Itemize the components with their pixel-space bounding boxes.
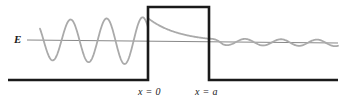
barrier-right-edge-label: x = a (195, 87, 218, 97)
tunneling-diagram: E x = 0 x = a (0, 0, 341, 105)
diagram-canvas (0, 0, 341, 105)
potential-barrier (8, 7, 338, 80)
barrier-left-edge-label: x = 0 (138, 87, 161, 97)
energy-level-label: E (14, 34, 21, 45)
